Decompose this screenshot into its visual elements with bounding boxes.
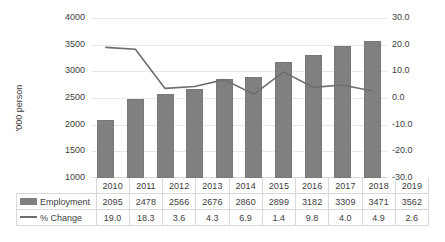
y-axis-left-tick-label: 3500 [65, 40, 85, 49]
table-header-year: 2018 [362, 178, 395, 194]
data-table: 2010201120122013201420152016201720182019… [16, 178, 429, 226]
chart-container: '000 person 4000350030002500200015001000… [0, 0, 445, 242]
table-cell: 4.9 [362, 210, 395, 226]
table-cell: 2095 [96, 194, 129, 210]
legend-line-swatch-icon [20, 216, 37, 218]
table-header-year: 2014 [229, 178, 262, 194]
y-axis-right-tick-label: 0.0 [392, 93, 405, 102]
y-axis-left-tick-label: 2000 [65, 120, 85, 129]
table-header-year: 2019 [395, 178, 428, 194]
table-cell: 1.4 [262, 210, 295, 226]
table-cell: 4.0 [329, 210, 362, 226]
table-header-year: 2017 [329, 178, 362, 194]
table-cell: 4.3 [196, 210, 229, 226]
table-cell: 19.0 [96, 210, 129, 226]
legend-label: Employment [40, 197, 90, 207]
table-cell: 3.6 [163, 210, 196, 226]
y-axis-right-tick-label: 30.0 [392, 13, 410, 22]
table-header-year: 2012 [163, 178, 196, 194]
legend-bar-swatch-icon [20, 198, 37, 205]
y-axis-left-tick-label: 1500 [65, 146, 85, 155]
plot-area [91, 18, 387, 178]
table-header-year: 2011 [129, 178, 162, 194]
table-series-label-cell: % Change [17, 210, 97, 226]
y-axis-right-tick-label: 10.0 [392, 66, 410, 75]
y-axis-left-tick-label: 2500 [65, 93, 85, 102]
table-cell: 2.6 [395, 210, 428, 226]
y-axis-right-ticks: 30.020.010.00.0-10.0-20.0-30.0 [392, 18, 436, 178]
table-series-label-cell: Employment [17, 194, 97, 210]
y-axis-left-ticks: 4000350030002500200015001000 [49, 18, 85, 178]
table-cell: 9.8 [296, 210, 329, 226]
table-cell: 3182 [296, 194, 329, 210]
table-cell: 2478 [129, 194, 162, 210]
y-axis-left-tick-label: 3000 [65, 66, 85, 75]
table-header-corner [17, 178, 97, 194]
table-row: % Change19.018.33.64.36.91.49.84.04.92.6 [17, 210, 429, 226]
table-cell: 2566 [163, 194, 196, 210]
y-axis-right-tick-label: -20.0 [392, 146, 413, 155]
y-axis-title: '000 person [14, 58, 24, 158]
table-row: Employment209524782566267628602899318233… [17, 194, 429, 210]
table-cell: 6.9 [229, 210, 262, 226]
legend-label: % Change [40, 213, 82, 223]
table-header-year: 2015 [262, 178, 295, 194]
line-series-percent-change [91, 18, 387, 178]
table-header-year: 2010 [96, 178, 129, 194]
table-header-year: 2016 [296, 178, 329, 194]
table-cell: 2899 [262, 194, 295, 210]
table-cell: 3471 [362, 194, 395, 210]
table-cell: 3562 [395, 194, 428, 210]
table-cell: 2676 [196, 194, 229, 210]
table-header-row: 2010201120122013201420152016201720182019 [17, 178, 429, 194]
table-header-year: 2013 [196, 178, 229, 194]
y-axis-left-tick-label: 4000 [65, 13, 85, 22]
y-axis-right-tick-label: -10.0 [392, 120, 413, 129]
table-cell: 3309 [329, 194, 362, 210]
table-cell: 18.3 [129, 210, 162, 226]
table-cell: 2860 [229, 194, 262, 210]
y-axis-right-tick-label: 20.0 [392, 40, 410, 49]
